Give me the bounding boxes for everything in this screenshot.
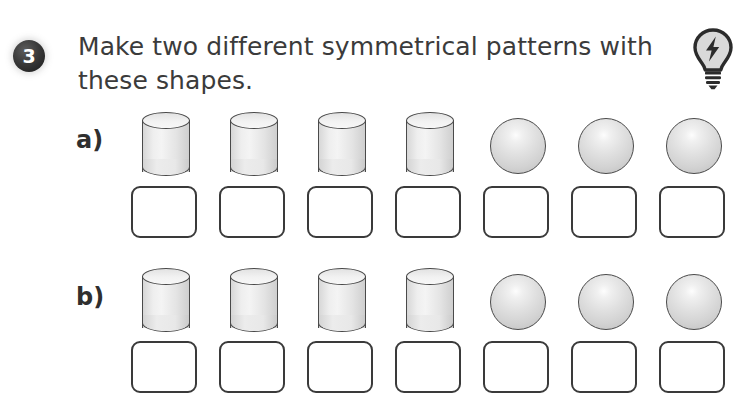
worksheet-page: 3 Make two different symmetrical pattern… [0, 0, 756, 400]
sphere-graphic [578, 274, 634, 330]
question-text-line-2: these shapes. [78, 64, 668, 98]
cylinder-top-ellipse [142, 112, 190, 129]
row-a-shape-1-cylinder [131, 112, 201, 184]
cylinder-graphic [406, 112, 454, 178]
row-a-answer-box-2[interactable] [219, 186, 285, 238]
lightbulb-icon [684, 24, 742, 90]
question-text: Make two different symmetrical patterns … [78, 30, 668, 98]
cylinder-top-ellipse [318, 112, 366, 129]
cylinder-graphic [318, 112, 366, 178]
question-header: 3 Make two different symmetrical pattern… [0, 18, 756, 98]
cylinder-top-ellipse [230, 268, 278, 285]
cylinder-bottom [142, 315, 190, 332]
row-b-label: b) [76, 283, 104, 311]
cylinder-graphic [230, 112, 278, 178]
cylinder-graphic [318, 268, 366, 334]
row-a-answer-box-6[interactable] [571, 186, 637, 238]
row-a-shape-2-cylinder [219, 112, 289, 184]
sphere-graphic [666, 274, 722, 330]
cylinder-bottom [318, 159, 366, 176]
row-b-shape-5-sphere [483, 268, 553, 340]
row-a-answer-box-1[interactable] [131, 186, 197, 238]
sphere-graphic [666, 118, 722, 174]
row-b-shape-4-cylinder [395, 268, 465, 340]
row-b-shape-7-sphere [659, 268, 729, 340]
row-a-shape-6-sphere [571, 112, 641, 184]
cylinder-bottom [406, 315, 454, 332]
row-a-shape-4-cylinder [395, 112, 465, 184]
row-b-answer-box-2[interactable] [219, 341, 285, 393]
cylinder-graphic [142, 112, 190, 178]
cylinder-bottom [142, 159, 190, 176]
row-a-shape-3-cylinder [307, 112, 377, 184]
row-a-answer-box-4[interactable] [395, 186, 461, 238]
cylinder-top-ellipse [142, 268, 190, 285]
row-b-shape-1-cylinder [131, 268, 201, 340]
row-b-shape-6-sphere [571, 268, 641, 340]
cylinder-graphic [406, 268, 454, 334]
cylinder-top-ellipse [406, 112, 454, 129]
cylinder-bottom [230, 315, 278, 332]
row-a-label: a) [76, 126, 103, 154]
cylinder-bottom [318, 315, 366, 332]
cylinder-top-ellipse [406, 268, 454, 285]
cylinder-bottom [406, 159, 454, 176]
row-a-answer-box-3[interactable] [307, 186, 373, 238]
row-a-shape-7-sphere [659, 112, 729, 184]
row-b-answer-box-4[interactable] [395, 341, 461, 393]
row-b-answer-box-6[interactable] [571, 341, 637, 393]
row-a-answer-box-7[interactable] [659, 186, 725, 238]
row-b-shape-3-cylinder [307, 268, 377, 340]
row-b-shape-2-cylinder [219, 268, 289, 340]
cylinder-top-ellipse [318, 268, 366, 285]
question-number-badge: 3 [13, 40, 45, 72]
cylinder-bottom [230, 159, 278, 176]
row-b-answer-box-7[interactable] [659, 341, 725, 393]
cylinder-graphic [142, 268, 190, 334]
row-b-answer-box-3[interactable] [307, 341, 373, 393]
row-a-shape-5-sphere [483, 112, 553, 184]
question-text-line-1: Make two different symmetrical patterns … [78, 30, 668, 64]
row-b-answer-box-1[interactable] [131, 341, 197, 393]
row-b-answer-box-5[interactable] [483, 341, 549, 393]
sphere-graphic [578, 118, 634, 174]
cylinder-top-ellipse [230, 112, 278, 129]
sphere-graphic [490, 274, 546, 330]
cylinder-graphic [230, 268, 278, 334]
sphere-graphic [490, 118, 546, 174]
row-a-answer-box-5[interactable] [483, 186, 549, 238]
